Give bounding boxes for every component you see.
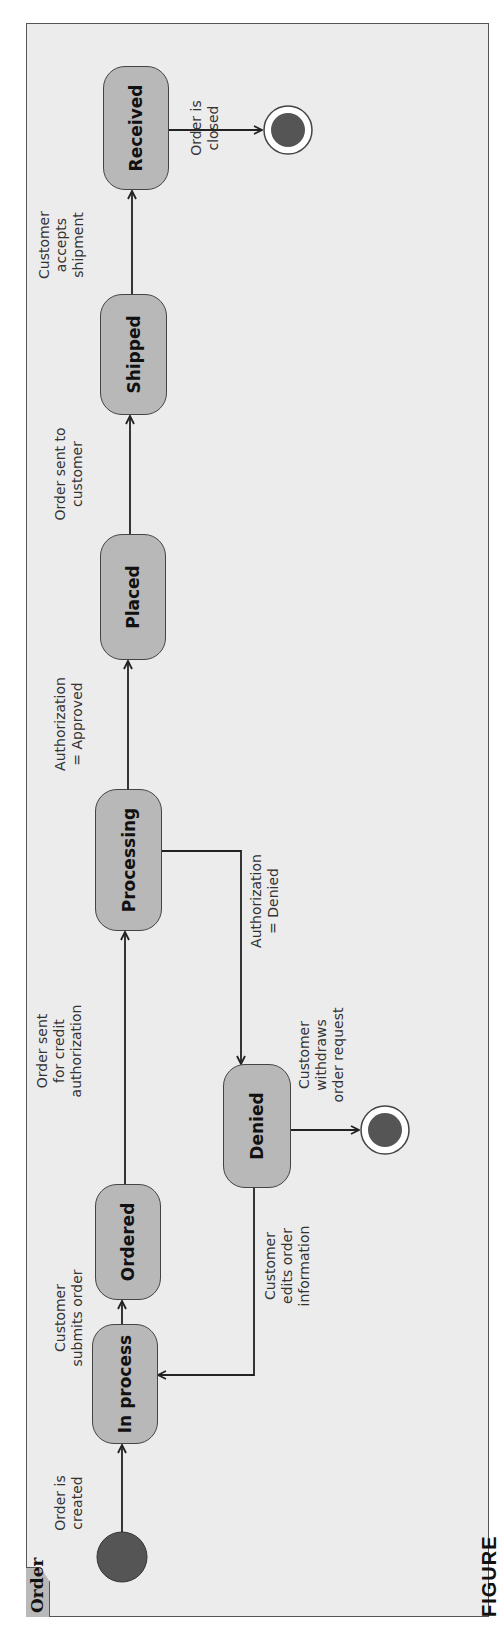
label-sent-to-customer: Order sent to customer: [52, 419, 86, 529]
state-denied: Denied: [223, 1064, 291, 1188]
label-submits-order: Customer submits order: [52, 1263, 86, 1373]
label-auth-denied: Authorization = Denied: [248, 841, 282, 961]
label-auth-approved: Authorization = Approved: [52, 669, 86, 779]
state-shipped: Shipped: [100, 294, 167, 415]
state-ordered: Ordered: [95, 1184, 161, 1300]
label-order-closed: Order is closed: [188, 93, 222, 163]
label-credit-authorization: Order sent for credit authorization: [34, 991, 85, 1111]
initial-node: [97, 1532, 147, 1582]
state-received: Received: [103, 66, 169, 190]
label-edits-information: Customer edits order information: [262, 1211, 313, 1321]
state-processing: Processing: [95, 789, 162, 931]
label-accepts-shipment: Customer accepts shipment: [36, 195, 87, 295]
final-node-closed: [271, 113, 305, 147]
state-in-process: In process: [92, 1324, 158, 1444]
final-node-withdrawn: [368, 1113, 402, 1147]
state-placed: Placed: [100, 534, 166, 660]
label-withdraws: Customer withdraws order request: [296, 995, 347, 1115]
label-order-created: Order is created: [52, 1463, 86, 1543]
figure-caption: FIGURE: [478, 1535, 501, 1617]
